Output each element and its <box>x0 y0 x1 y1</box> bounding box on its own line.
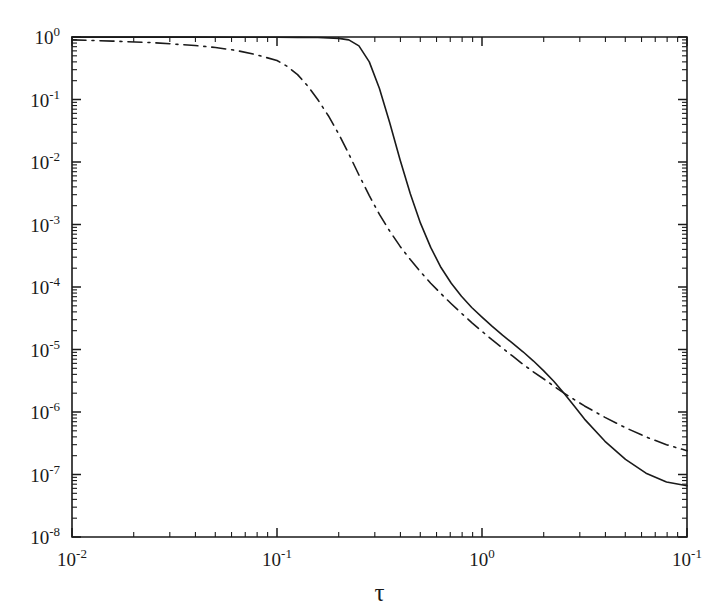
figure-background <box>0 0 723 615</box>
plot-canvas: 10-210-110010-1 10010-110-210-310-410-51… <box>0 0 723 615</box>
x-axis-title: τ <box>374 579 384 606</box>
log-log-plot-figure: 10-210-110010-1 10010-110-210-310-410-51… <box>0 0 723 615</box>
